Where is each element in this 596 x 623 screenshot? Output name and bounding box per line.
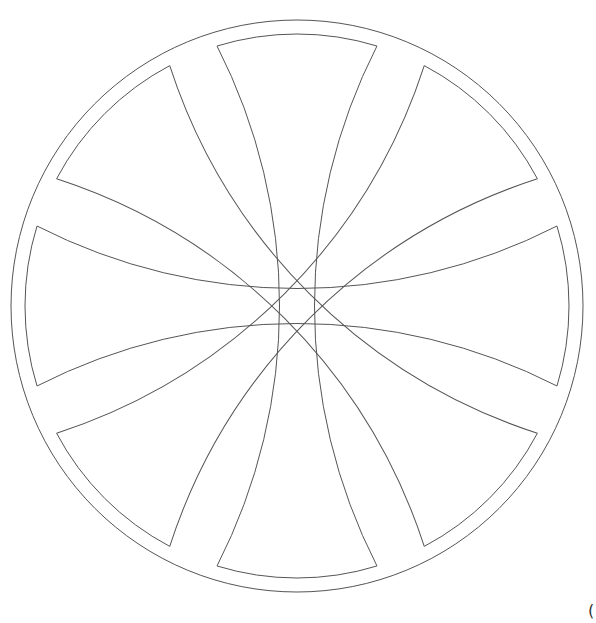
wedge-0-inner-arc — [217, 34, 377, 46]
wheel-diagram — [0, 0, 596, 623]
wedge-7-inner-arc — [57, 66, 170, 179]
corner-paren-fragment: ( — [588, 603, 594, 619]
band-1-arc-a — [57, 66, 469, 478]
band-0-arc-a — [217, 46, 279, 566]
wedge-6-inner-arc — [25, 226, 37, 386]
band-1-arc-b — [126, 135, 538, 547]
band-2-arc-a — [37, 226, 557, 288]
wedge-1-inner-arc — [424, 66, 537, 179]
band-3-arc-b — [57, 135, 469, 547]
wedge-group — [25, 34, 569, 578]
outer-circle — [11, 20, 583, 592]
band-3-arc-a — [126, 66, 538, 478]
wedge-3-inner-arc — [424, 433, 537, 546]
band-2-arc-b — [37, 323, 557, 385]
band-0-arc-b — [314, 46, 376, 566]
wedge-5-inner-arc — [57, 433, 170, 546]
wedge-4-inner-arc — [217, 566, 377, 578]
wedge-2-inner-arc — [557, 226, 569, 386]
